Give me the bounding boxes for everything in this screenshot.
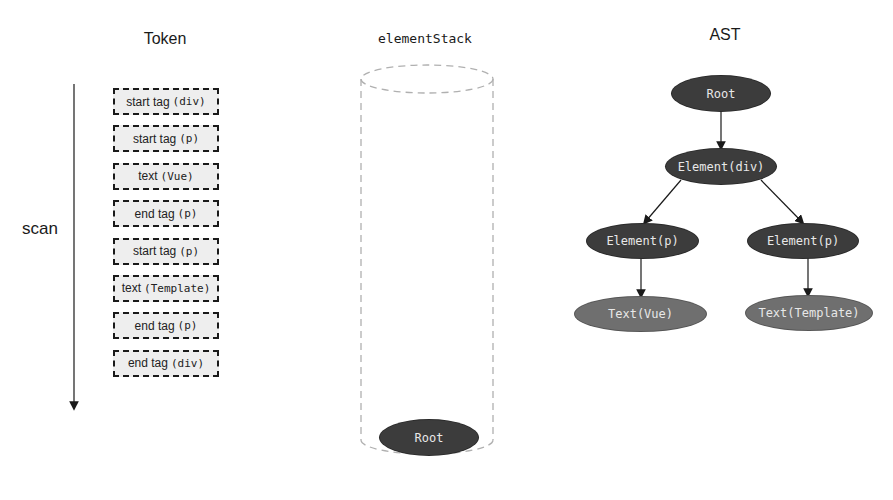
- token-item: end tag(p): [113, 312, 219, 339]
- token-item: text(Template): [113, 275, 219, 302]
- ast-node-text-vue: Text(Vue): [575, 297, 706, 331]
- ast-edge-div-p2: [761, 180, 801, 221]
- token-list: start tag(div) start tag(p) text(Vue) en…: [113, 88, 221, 387]
- ast-node-text-template: Text(Template): [746, 296, 872, 330]
- ast-node-root: Root: [672, 76, 770, 111]
- stack-node-root: Root: [380, 420, 478, 455]
- ast-node-element-p-right: Element(p): [748, 224, 858, 258]
- ast-node-element-p-left: Element(p): [587, 224, 698, 258]
- element-stack-cylinder: [361, 65, 493, 454]
- token-item: start tag(p): [113, 125, 219, 152]
- ast-node-element-div: Element(div): [666, 149, 776, 184]
- ast-edge-div-p1: [646, 180, 681, 221]
- token-item: start tag(p): [113, 238, 219, 265]
- token-item: end tag(p): [113, 200, 219, 227]
- token-item: text(Vue): [113, 163, 219, 190]
- token-item: end tag(div): [113, 350, 219, 377]
- token-item: start tag(div): [113, 88, 219, 115]
